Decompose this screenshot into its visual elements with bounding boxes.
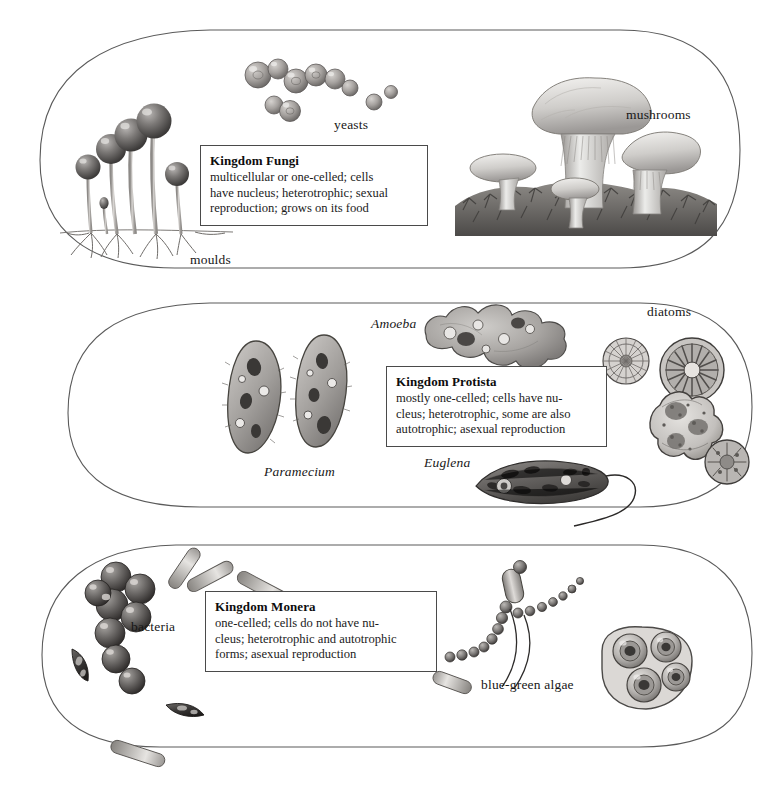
info-box-protista: Kingdom Protista mostly one-celled; cell… <box>386 366 607 447</box>
small-round-protist-illustration <box>700 435 754 489</box>
label-bacteria: bacteria <box>131 619 175 635</box>
label-euglena: Euglena <box>424 455 470 471</box>
info-box-protista-title: Kingdom Protista <box>396 374 597 390</box>
label-yeasts: yeasts <box>334 117 368 133</box>
info-box-monera-title: Kingdom Monera <box>215 599 427 615</box>
yeasts-illustration <box>228 55 418 130</box>
blue-green-algae-colony-illustration <box>594 621 704 721</box>
kingdoms-diagram: yeasts mushrooms moulds Kingdom Fungi mu… <box>0 0 775 794</box>
label-moulds: moulds <box>190 252 231 268</box>
paramecium-illustration <box>218 335 378 465</box>
label-diatoms: diatoms <box>647 304 691 320</box>
kingdom-fungi-group: yeasts mushrooms moulds Kingdom Fungi mu… <box>0 0 775 285</box>
kingdom-protista-group: Amoeba diatoms Paramecium Euglena Kingdo… <box>0 285 775 525</box>
info-box-fungi: Kingdom Fungi multicellular or one-celle… <box>200 145 428 226</box>
mushrooms-illustration <box>455 58 720 263</box>
label-mushrooms: mushrooms <box>626 107 691 123</box>
info-box-protista-body: mostly one-celled; cells have nu- cleus;… <box>396 391 597 438</box>
info-box-monera: Kingdom Monera one-celled; cells do not … <box>205 591 437 672</box>
info-box-monera-body: one-celled; cells do not have nu- cleus;… <box>215 616 427 663</box>
label-paramecium: Paramecium <box>264 464 335 480</box>
amoeba-illustration <box>420 295 580 375</box>
label-blue-green-algae: blue-green algae <box>481 677 574 693</box>
info-box-fungi-body: multicellular or one-celled; cells have … <box>210 170 418 217</box>
label-amoeba: Amoeba <box>371 316 416 332</box>
info-box-fungi-title: Kingdom Fungi <box>210 153 418 169</box>
kingdom-monera-group: bacteria blue-green algae Kingdom Monera… <box>0 525 775 785</box>
